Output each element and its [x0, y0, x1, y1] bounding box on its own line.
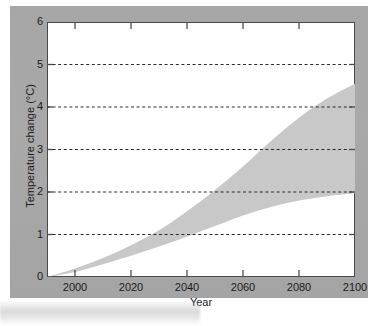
- scan-artifact: [0, 300, 200, 326]
- x-tick-label: 2020: [119, 281, 143, 293]
- x-axis-tick-labels: 200020202040206020802100: [47, 281, 355, 297]
- x-tick-label: 2080: [287, 281, 311, 293]
- x-tick-label: 2040: [175, 281, 199, 293]
- uncertainty-band: [47, 84, 355, 277]
- y-tick-label: 0: [29, 271, 43, 282]
- x-tick-label: 2060: [231, 281, 255, 293]
- x-tick-label: 2100: [343, 281, 367, 293]
- plot-wrapper: [47, 22, 355, 277]
- figure-canvas: 0123456 200020202040206020802100 Year Te…: [0, 0, 378, 326]
- y-axis-title: Temperature change (°C): [24, 56, 36, 236]
- chart-svg: [47, 22, 355, 277]
- y-tick-label: 6: [29, 16, 43, 27]
- x-tick-label: 2000: [63, 281, 87, 293]
